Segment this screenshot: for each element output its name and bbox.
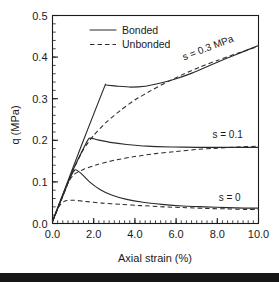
y-tick-label: 0.3 — [32, 93, 47, 105]
x-tick-label: 4.0 — [127, 228, 142, 240]
curve-annotation: s = 0.1 — [212, 129, 243, 140]
y-tick-label: 0.1 — [32, 176, 47, 188]
x-tick-label: 8.0 — [210, 228, 225, 240]
y-tick-label: 0.0 — [32, 218, 47, 230]
y-tick-label: 0.5 — [32, 10, 47, 22]
footer-band — [0, 273, 279, 282]
x-axis-minor-ticks — [53, 220, 259, 223]
x-tick-label: 10.0 — [248, 228, 269, 240]
curve-annotation: s = 0 — [219, 192, 241, 203]
legend-label: Bonded — [122, 24, 158, 36]
x-tick-label: 6.0 — [168, 228, 183, 240]
y-tick-label: 0.2 — [32, 134, 47, 146]
legend-label: Unbonded — [122, 38, 171, 50]
y-tick-label: 0.4 — [32, 51, 47, 63]
chart-figure: 0.02.04.06.08.010.0 0.00.10.20.30.40.5 s… — [0, 0, 279, 282]
x-tick-label: 2.0 — [86, 228, 101, 240]
y-axis-title: q (MPa) — [9, 105, 21, 144]
x-axis-title: Axial strain (%) — [118, 252, 192, 264]
stress-strain-chart: 0.02.04.06.08.010.0 0.00.10.20.30.40.5 s… — [0, 0, 279, 282]
